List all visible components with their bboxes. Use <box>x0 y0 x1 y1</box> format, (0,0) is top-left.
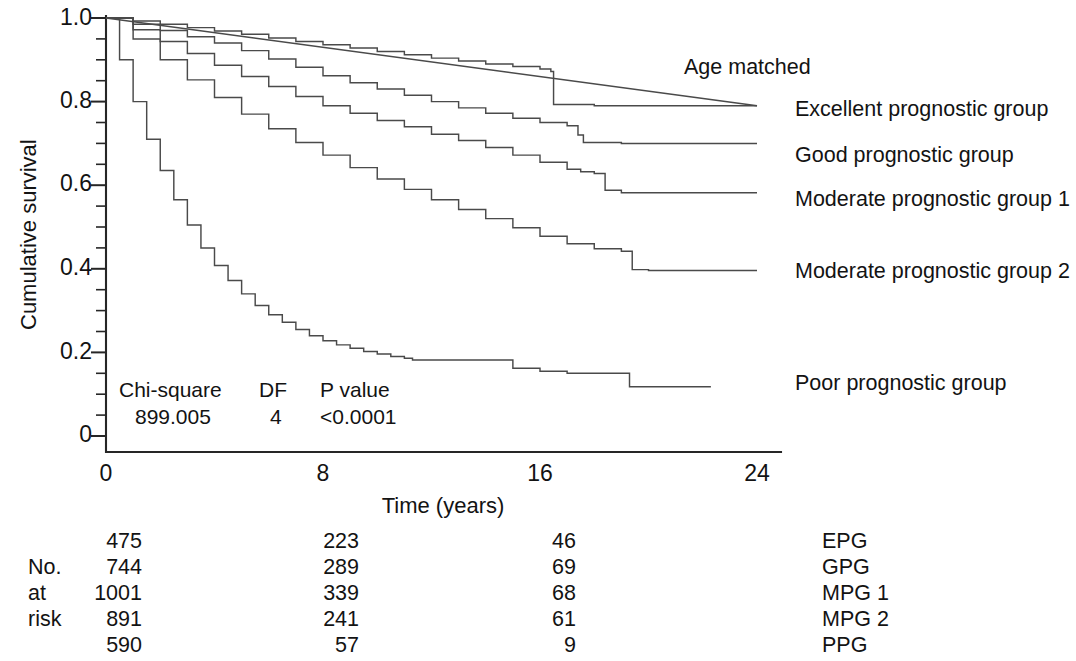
risk-count-mpg2-t16: 61 <box>502 609 576 631</box>
risk-tag-ppg: PPG <box>822 635 867 657</box>
stats-header-p-value: P value <box>320 379 390 400</box>
survival-chart-figure: 1.0 0.8 0.6 0.4 0.2 0 Cumulative surviva… <box>0 0 1076 661</box>
curves-group <box>106 18 757 387</box>
ytick-label-02: 0.2 <box>22 340 92 363</box>
risk-count-mpg2-t0: 891 <box>68 609 142 631</box>
curve-age-matched <box>106 18 757 106</box>
stats-value-chi-square: 899.005 <box>135 406 211 427</box>
risk-count-mpg1-t0: 1001 <box>68 583 142 605</box>
risk-tag-mpg1: MPG 1 <box>822 583 889 605</box>
y-axis-title: Cumulative survival <box>18 139 40 330</box>
xtick-label-8: 8 <box>293 462 353 485</box>
ytick-label-0: 0 <box>22 423 92 446</box>
risk-count-gpg-t0: 744 <box>68 557 142 579</box>
xtick-label-0: 0 <box>76 462 136 485</box>
risk-tag-mpg2: MPG 2 <box>822 609 889 631</box>
ytick-label-1: 1.0 <box>22 6 92 29</box>
risk-count-epg-t16: 46 <box>502 531 576 553</box>
curve-good-prognostic-group <box>106 18 757 143</box>
curve-label-excellent-prognostic-group: Excellent prognostic group <box>795 99 1048 121</box>
risk-tag-gpg: GPG <box>822 557 870 579</box>
stats-header-df: DF <box>259 379 287 400</box>
curve-label-good-prognostic-group: Good prognostic group <box>795 145 1014 167</box>
risk-tag-epg: EPG <box>822 531 867 553</box>
risk-count-gpg-t16: 69 <box>502 557 576 579</box>
risk-side-label-line-3: at <box>28 583 46 605</box>
curve-label-moderate-prognostic-group-2: Moderate prognostic group 2 <box>795 261 1070 283</box>
risk-side-label-line-2: No. <box>28 557 61 579</box>
risk-count-mpg1-t16: 68 <box>502 583 576 605</box>
risk-count-ppg-t8: 57 <box>285 635 359 657</box>
curve-label-age-matched: Age matched <box>684 57 811 79</box>
risk-count-epg-t0: 475 <box>68 531 142 553</box>
curve-label-poor-prognostic-group: Poor prognostic group <box>795 373 1007 395</box>
risk-count-ppg-t0: 590 <box>68 635 142 657</box>
stats-header-chi-square: Chi-square <box>119 379 222 400</box>
ytick-label-08: 0.8 <box>22 89 92 112</box>
stats-value-df: 4 <box>270 406 282 427</box>
stats-value-p-value: <0.0001 <box>320 406 397 427</box>
risk-count-epg-t8: 223 <box>285 531 359 553</box>
risk-count-mpg1-t8: 339 <box>285 583 359 605</box>
xtick-label-24: 24 <box>727 462 787 485</box>
curve-poor-prognostic-group <box>106 18 711 387</box>
xtick-label-16: 16 <box>510 462 570 485</box>
risk-side-label-line-4: risk <box>28 609 61 631</box>
risk-count-gpg-t8: 289 <box>285 557 359 579</box>
x-axis-title: Time (years) <box>313 495 573 517</box>
curve-label-moderate-prognostic-group-1: Moderate prognostic group 1 <box>795 189 1070 211</box>
risk-count-ppg-t16: 9 <box>502 635 576 657</box>
risk-count-mpg2-t8: 241 <box>285 609 359 631</box>
